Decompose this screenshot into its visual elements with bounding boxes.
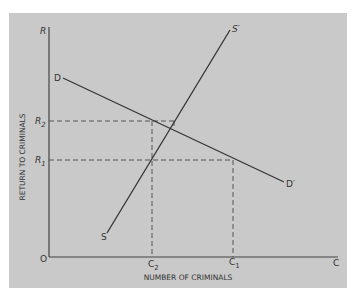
x-axis-title: NUMBER OF CRIMINALS — [144, 273, 233, 282]
origin-label: O — [40, 254, 47, 264]
supply-end-label: S′ — [232, 24, 240, 34]
demand-end-label: D′ — [286, 179, 295, 189]
c1-label: C1 — [229, 257, 240, 270]
x-axis-end-label: C — [333, 258, 339, 268]
supply-demand-diagram: R O C D D′ S S′ R2 R1 C2 C1 NUMBER OF CR… — [0, 0, 358, 296]
r2-label: R2 — [35, 116, 46, 129]
y-axis-end-label: R — [40, 26, 46, 36]
y-axis-title: RETURN TO CRIMINALS — [18, 113, 27, 200]
c2-label: C2 — [148, 259, 159, 272]
supply-curve — [107, 30, 230, 233]
r1-label: R1 — [35, 155, 46, 168]
demand-curve — [63, 78, 284, 182]
demand-start-label: D — [54, 73, 61, 83]
supply-start-label: S — [101, 232, 107, 242]
